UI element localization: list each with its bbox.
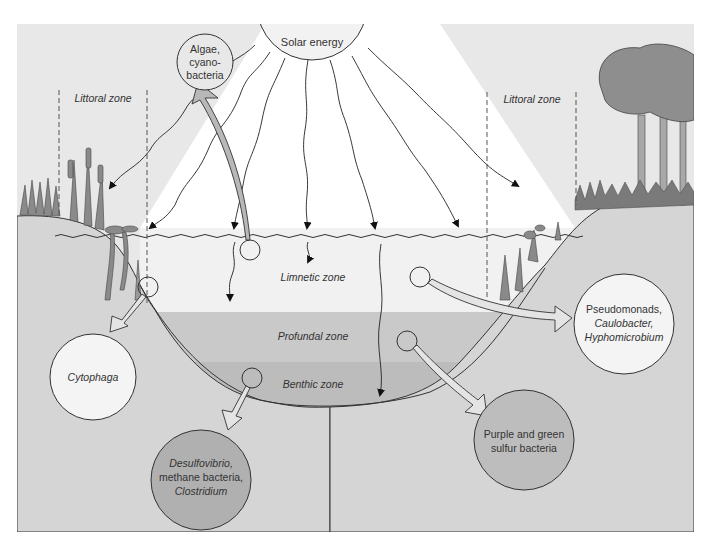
svg-text:Cytophaga: Cytophaga [68,371,119,383]
svg-text:sulfur bacteria: sulfur bacteria [491,442,557,454]
svg-text:Caulobacter,: Caulobacter, [595,317,654,329]
svg-text:Purple and green: Purple and green [484,428,565,440]
sample-circle-benthic [242,368,262,388]
pseudomonads-circle: Pseudomonads, Caulobacter, Hyphomicrobiu… [574,274,674,374]
svg-text:methane bacteria,: methane bacteria, [159,471,243,483]
desulfovibrio-circle: Desulfovibrio, methane bacteria, Clostri… [151,430,251,530]
sample-circle-limnetic [410,267,430,287]
svg-text:cyano-: cyano- [189,56,221,68]
profundal-zone-label: Profundal zone [278,330,349,342]
algae-circle: Algae, cyano- bacteria [177,34,233,90]
lake-ecosystem-diagram: Solar energy Littoral zone Littoral zone… [0,0,712,548]
sun-label: Solar energy [281,36,344,48]
svg-text:Clostridium: Clostridium [175,485,228,497]
cytophaga-circle: Cytophaga [50,334,136,420]
littoral-zone-right-label: Littoral zone [503,93,560,105]
purple-green-circle: Purple and green sulfur bacteria [474,390,574,490]
benthic-zone-label: Benthic zone [283,378,344,390]
svg-text:Algae,: Algae, [190,43,220,55]
svg-text:Hyphomicrobium: Hyphomicrobium [585,331,664,343]
svg-text:bacteria: bacteria [186,69,224,81]
svg-text:Desulfovibrio,: Desulfovibrio, [169,457,233,469]
sample-circle-surface [240,240,260,260]
littoral-zone-left-label: Littoral zone [74,92,131,104]
limnetic-zone-label: Limnetic zone [281,271,346,283]
svg-text:Pseudomonads,: Pseudomonads, [586,303,662,315]
